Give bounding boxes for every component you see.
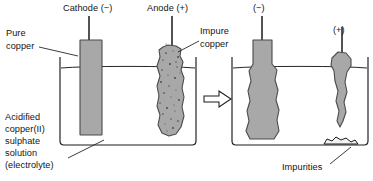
label-impure-copper-line1: Impure bbox=[200, 26, 229, 36]
cathode-after bbox=[246, 16, 279, 139]
label-cathode: Cathode (−) bbox=[63, 3, 112, 13]
label-pure-copper-line2: copper bbox=[6, 41, 34, 51]
label-pure-copper-line1: Pure bbox=[6, 28, 26, 38]
label-electrolyte-line3: sulphate bbox=[5, 136, 40, 146]
impurities-sediment bbox=[324, 137, 358, 144]
label-electrolyte-line1: Acidified bbox=[5, 112, 40, 122]
cathode-before bbox=[80, 16, 102, 135]
leader-impurities bbox=[330, 147, 351, 164]
leader-impure-copper bbox=[178, 41, 199, 52]
leader-electrolyte bbox=[68, 140, 104, 158]
cathode-before-bar bbox=[80, 40, 102, 135]
anode-after-block bbox=[331, 52, 351, 127]
label-right-negative: (−) bbox=[253, 3, 265, 13]
cathode-after-bar bbox=[246, 40, 279, 139]
label-electrolyte-line4: solution bbox=[5, 148, 37, 158]
label-impure-copper-line2: copper bbox=[200, 39, 228, 49]
label-impurities: Impurities bbox=[282, 162, 322, 172]
anode-after bbox=[331, 27, 351, 127]
label-electrolyte-line5: (electrolyte) bbox=[5, 160, 54, 170]
label-electrolyte-line2: copper(II) bbox=[5, 124, 45, 134]
anode-before bbox=[157, 16, 184, 136]
label-anode: Anode (+) bbox=[147, 3, 188, 13]
leader-pure-copper bbox=[39, 47, 78, 56]
figure-canvas: Cathode (−) Anode (+) Pure copper Impure… bbox=[0, 0, 373, 181]
process-arrow bbox=[204, 91, 231, 107]
anode-before-block bbox=[157, 45, 184, 136]
electrolysis-diagram-svg bbox=[0, 0, 373, 181]
label-right-positive: (+) bbox=[333, 25, 345, 35]
